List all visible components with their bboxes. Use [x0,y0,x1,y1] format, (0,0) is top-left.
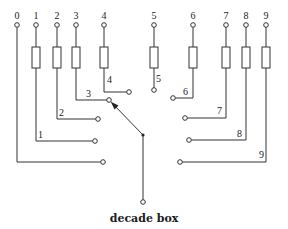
contact-label-7: 7 [217,105,222,116]
contact-5 [152,88,157,93]
diagram-caption: decade box [0,212,288,225]
contact-1 [93,139,98,144]
branch-7 [183,23,230,121]
contact-label-4: 4 [107,74,112,85]
top-label-3: 3 [74,10,79,21]
contact-labels: 1 2 3 4 5 6 7 8 9 [38,73,264,160]
branch-0 [15,23,106,165]
top-label-0: 0 [15,10,20,21]
resistor-6 [189,47,197,68]
terminal-3-top [74,23,79,28]
contact-label-1: 1 [38,129,43,140]
contact-label-2: 2 [59,107,64,118]
top-label-2: 2 [55,10,60,21]
top-label-5: 5 [152,10,157,21]
top-label-9: 9 [264,10,269,21]
top-labels: 0 1 2 3 4 5 6 7 8 9 [15,10,269,21]
terminal-8-top [244,23,249,28]
contact-label-5: 5 [156,73,161,84]
terminal-9-top [264,23,269,28]
contact-6 [171,96,176,101]
branch-8 [187,23,250,143]
resistor-3 [72,47,80,68]
terminal-6-top [191,23,196,28]
contact-label-9: 9 [259,149,264,160]
top-label-7: 7 [224,10,229,21]
contact-0 [101,160,106,165]
contact-8 [187,138,192,143]
contact-7 [183,116,188,121]
top-label-8: 8 [244,10,249,21]
contact-label-8: 8 [237,128,242,139]
resistor-5 [150,47,158,68]
terminal-7-top [224,23,229,28]
common-terminal [141,200,146,205]
contact-2 [96,117,101,122]
contact-label-3: 3 [86,88,91,99]
rotary-wiper [111,102,146,205]
terminal-0-top [15,23,20,28]
resistor-9 [262,47,270,68]
branch-1 [32,23,97,144]
contact-4 [127,90,132,95]
resistor-4 [100,47,108,68]
top-label-4: 4 [102,10,107,21]
terminal-1-top [34,23,39,28]
branch-4 [100,23,131,95]
decade-box-diagram: 0 1 2 3 4 5 6 7 8 9 1 2 3 4 5 6 7 8 9 [0,0,288,229]
resistor-7 [222,47,230,68]
resistor-8 [242,47,250,68]
contact-9 [178,160,183,165]
terminal-5-top [152,23,157,28]
resistor-1 [32,47,40,68]
resistor-2 [53,47,61,68]
contact-3 [107,98,112,103]
terminal-4-top [102,23,107,28]
top-label-1: 1 [34,10,39,21]
terminal-2-top [55,23,60,28]
contact-label-6: 6 [183,86,188,97]
top-label-6: 6 [191,10,196,21]
branch-9 [178,23,270,165]
